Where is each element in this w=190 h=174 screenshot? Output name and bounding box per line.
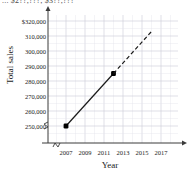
- sales-trend-chart: ... $2??,???; $3??,??? Total sales Year …: [0, 0, 190, 174]
- data-series-group: [64, 32, 152, 129]
- grid-major-lines: [48, 21, 178, 134]
- grid-minor-lines: [57, 15, 171, 143]
- chart-canvas: [0, 0, 190, 174]
